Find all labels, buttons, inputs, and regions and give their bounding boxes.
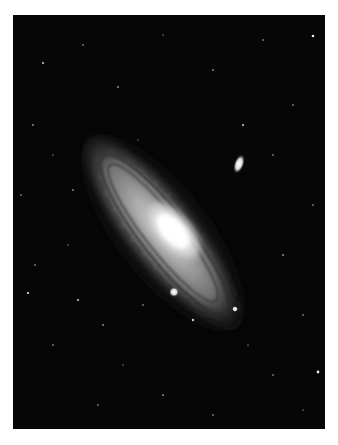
satellite-galaxy-m110: [231, 153, 247, 175]
satellite-galaxy-m32: [169, 287, 179, 297]
bright-knot: [232, 306, 238, 312]
galaxy-illustration: [13, 15, 325, 429]
galaxy-photograph: Black-and-white astronomical photograph …: [13, 15, 325, 429]
